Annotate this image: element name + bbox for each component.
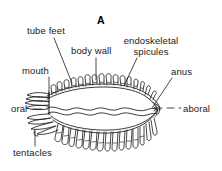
ventral-body-wall bbox=[51, 109, 158, 133]
figure-panel-a: A tube feet body wall endoskeletalspicul… bbox=[0, 0, 222, 171]
label-aboral: aboral bbox=[183, 104, 210, 115]
oral-region bbox=[25, 92, 58, 136]
leader-endoskeletal-spicules bbox=[124, 58, 137, 86]
label-endoskeletal-line2: spicules bbox=[133, 46, 168, 57]
label-endoskeletal-line1: endoskeletal bbox=[124, 35, 179, 46]
leader-tube-feet bbox=[54, 38, 72, 83]
label-endoskeletal-spicules: endoskeletalspicules bbox=[116, 36, 186, 57]
label-tentacles: tentacles bbox=[13, 148, 52, 159]
label-mouth: mouth bbox=[22, 66, 49, 77]
label-tube-feet: tube feet bbox=[27, 26, 65, 37]
label-anus: anus bbox=[171, 67, 192, 78]
label-body-wall: body wall bbox=[71, 46, 112, 57]
label-oral: oral bbox=[11, 104, 27, 115]
internal-wavy-lines bbox=[47, 107, 158, 116]
dorsal-body-wall bbox=[47, 84, 160, 111]
panel-letter: A bbox=[97, 14, 105, 26]
